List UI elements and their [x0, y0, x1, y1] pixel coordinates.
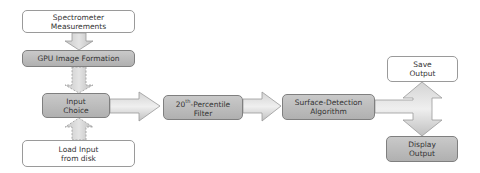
node-load-input-from-disk: Load Input from disk [22, 140, 135, 167]
arrow-spectrometer-to-gpu [65, 33, 93, 50]
arrow-surface-to-outputs [375, 82, 442, 136]
node-percentile-filter: 20th-Percentile Filter [163, 95, 243, 120]
node-spectrometer-measurements: Spectrometer Measurements [22, 10, 135, 33]
node-save-output: Save Output [387, 56, 458, 82]
node-input-choice: Input Choice [42, 93, 110, 118]
node-display-output: Display Output [386, 136, 458, 162]
filter-label: 20th-Percentile Filter [176, 97, 230, 118]
arrow-load-to-input-choice [65, 118, 93, 140]
node-gpu-image-formation: GPU Image Formation [22, 50, 135, 67]
arrow-gpu-to-input-choice [65, 67, 93, 93]
filter-number: 20 [176, 100, 186, 109]
node-surface-detection-algorithm: Surface-Detection Algorithm [282, 94, 375, 120]
filter-text: -Percentile Filter [190, 100, 230, 118]
arrow-filter-to-surface [243, 92, 281, 121]
arrow-input-choice-to-filter [110, 92, 160, 121]
